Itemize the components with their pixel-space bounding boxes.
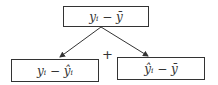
- total-deviation-label: yᵢ − ȳ: [89, 10, 123, 24]
- residual-box: yᵢ − ŷᵢ: [11, 59, 99, 82]
- explained-deviation-box: ŷᵢ − ȳ: [117, 57, 205, 80]
- plus-operator: +: [102, 47, 113, 62]
- arrow-left: [60, 27, 101, 57]
- residual-label: yᵢ − ŷᵢ: [37, 64, 73, 78]
- total-deviation-box: yᵢ − ȳ: [63, 6, 149, 27]
- explained-deviation-label: ŷᵢ − ȳ: [144, 62, 178, 76]
